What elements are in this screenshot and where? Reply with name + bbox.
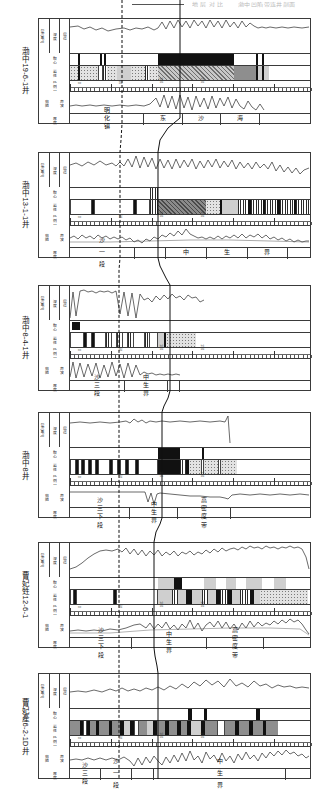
scale-tick (115, 355, 116, 358)
header-son-5: 声波 (58, 623, 64, 630)
scale-tick (160, 743, 161, 746)
header-depth-2: 深度 (51, 166, 57, 173)
well-panel-6[interactable]: 曹妃產6-2-1D井 GR(API) 深度 层位 取心 岩性 比 例 尺 电阻 … (0, 673, 319, 779)
header-horizon-4: 层位 (61, 426, 67, 433)
scale-tick (311, 743, 312, 746)
formation-cell[interactable]: 中生界 (132, 638, 206, 649)
formation-cell[interactable] (180, 381, 310, 392)
formation-cell[interactable]: 沙 一 段 (70, 248, 135, 259)
scale-tick (278, 88, 279, 91)
well-panel-1[interactable]: 渤中19-6-1井 GR(API) 深度 层位 取心 岩性 比 例 尺 电阻 声… (0, 18, 319, 124)
scale-tick (107, 612, 108, 615)
scale-tick (245, 88, 246, 91)
scale-tick (266, 355, 267, 358)
formation-cell[interactable] (231, 508, 310, 519)
scale-tick (225, 743, 226, 746)
formation-cell[interactable] (168, 381, 180, 392)
formation-cell[interactable]: 中生界 (125, 381, 168, 392)
scale-tick (168, 355, 169, 358)
panel-frame-6: GR(API) 深度 层位 取心 岩性 比 例 尺 电阻 声波 厚度 (38, 673, 311, 779)
scale-tick (164, 482, 165, 485)
scale-tick (209, 355, 210, 358)
scale-tick (148, 222, 149, 225)
formation-cell[interactable]: 中生界 (130, 508, 178, 519)
formation-cell[interactable]: 沙三下段 (70, 508, 130, 519)
scale-tick-label: 50 (118, 735, 123, 739)
scale-tick-label: 50 (118, 347, 123, 351)
scale-tick (241, 88, 242, 91)
scale-tick (298, 222, 299, 225)
scale-tick (221, 743, 222, 746)
formation-cell[interactable] (132, 769, 154, 780)
well-panel-3[interactable]: 渤中8-4-1井 GR(API) 深度 层位 取心 岩性 比 例 尺 电阻 声波 (0, 285, 319, 391)
scale-tick (160, 355, 161, 358)
formation-cell[interactable]: 沙三下段 (70, 638, 132, 649)
formation-cell[interactable] (288, 248, 310, 259)
scale-tick-label: 100 (159, 602, 164, 608)
scale-tick (209, 612, 210, 615)
scale-tick (164, 355, 165, 358)
formation-cell[interactable] (264, 638, 310, 649)
scale-tick (86, 355, 87, 358)
gr-curve-5 (70, 543, 310, 577)
well-panel-5[interactable]: 曹妃甡12-6-1 GR(API) 深度 层位 取心 岩性 比 例 尺 电阻 声… (0, 542, 319, 648)
header-depth-5: 深度 (51, 556, 57, 563)
scale-tick (274, 84, 275, 91)
scale-tick (70, 478, 71, 485)
scale-tick (94, 612, 95, 615)
formation-cell[interactable]: 中 (166, 248, 207, 259)
scale-tick (123, 482, 124, 485)
scale-tick (82, 743, 83, 746)
formation-cell[interactable]: 界 (248, 248, 289, 259)
header-horizon-3: 层位 (61, 299, 67, 306)
header-scale-5: 比 例 尺 (51, 605, 57, 615)
scale-tick (294, 743, 295, 746)
core-row-3 (70, 321, 310, 332)
formation-cell[interactable]: 东 (144, 114, 182, 125)
depth-scale-2: 050100150 (70, 215, 310, 225)
scale-tick (156, 612, 157, 615)
formation-cell[interactable]: 沙 一 段 (101, 769, 132, 780)
formation-cell[interactable]: 沙三段 (70, 769, 101, 780)
scale-tick (82, 88, 83, 91)
formation-cell[interactable]: 明化镇 (70, 114, 144, 125)
well-panel-4[interactable]: 渤中8井 GR(API) 深度 层位 取心 岩性 比 例 尺 电阻 声波 (0, 412, 319, 518)
header-thickness-3: 厚度 (51, 383, 57, 390)
scale-tick (94, 743, 95, 746)
formation-cell[interactable] (260, 114, 310, 125)
well-name-label-1: 渤中19-6-1井 (18, 18, 32, 124)
scale-tick (139, 743, 140, 746)
scale-tick (298, 612, 299, 615)
scale-tick (225, 612, 226, 615)
header-core-2: 取心 (51, 190, 57, 197)
scale-tick-label: 100 (159, 345, 164, 351)
formation-cell[interactable]: 生 (207, 248, 248, 259)
header-fragment-1: 地 层 对 比 (192, 0, 224, 8)
formation-cell[interactable]: 高密度带 (178, 508, 231, 519)
scale-tick-label: 50 (118, 214, 123, 218)
scale-tick (254, 743, 255, 746)
scale-tick (237, 482, 238, 485)
scale-tick (164, 612, 165, 615)
well-name-label-2: 渤中13-1-1井 (18, 152, 32, 258)
scale-tick (135, 612, 136, 615)
scale-tick (131, 88, 132, 91)
formation-label: 生 (222, 249, 231, 257)
header-gr-5: GR(API) (40, 553, 45, 568)
formation-cell[interactable]: 海 (221, 114, 259, 125)
scale-tick (74, 88, 75, 91)
formation-cell[interactable]: 高密度带 (207, 638, 265, 649)
scale-tick (131, 612, 132, 615)
formation-cell[interactable]: 沙 (183, 114, 221, 125)
scale-tick (307, 743, 308, 746)
track-body-1: 050100150 明化镇东沙海 (70, 19, 310, 123)
scale-tick (160, 88, 161, 91)
scale-tick (148, 612, 149, 615)
formation-cell[interactable] (135, 248, 166, 259)
well-panel-2[interactable]: 渤中13-1-1井 GR(API) 深度 层位 取心 岩性 比 例 尺 电阻 声… (0, 152, 319, 258)
formation-cell[interactable] (286, 769, 310, 780)
scale-tick (139, 355, 140, 358)
formation-cell[interactable]: 中 生 界 (154, 769, 286, 780)
formation-cell[interactable]: 沙三段 (70, 381, 125, 392)
scale-tick (94, 355, 95, 358)
